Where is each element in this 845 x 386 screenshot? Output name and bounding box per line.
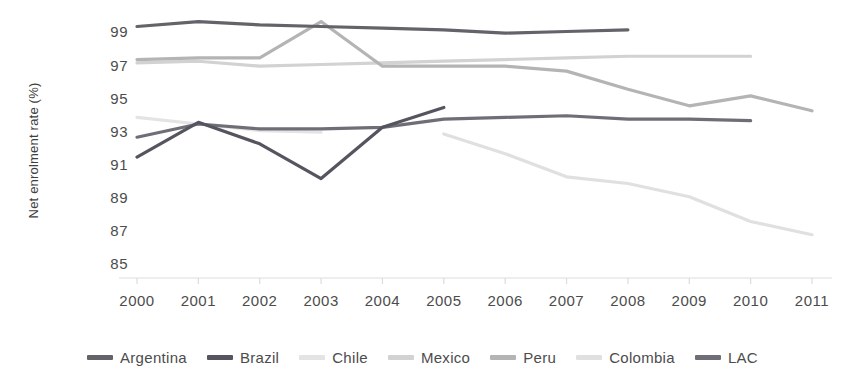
net-enrolment-rate-line-chart: Net enrolment rate (%) 9997959391898785 … <box>0 0 845 386</box>
legend-item-chile[interactable]: Chile <box>299 349 368 366</box>
legend-swatch-lac <box>695 355 721 360</box>
legend-label: Colombia <box>609 349 675 366</box>
legend-swatch-mexico <box>388 355 414 360</box>
legend-item-brazil[interactable]: Brazil <box>207 349 279 366</box>
legend-label: Mexico <box>421 349 470 366</box>
legend-label: Brazil <box>240 349 279 366</box>
x-axis-tick-label: 2004 <box>365 292 400 309</box>
x-axis-tick-label: 2002 <box>242 292 277 309</box>
x-axis-tick-label: 2000 <box>119 292 154 309</box>
legend-swatch-argentina <box>87 355 113 360</box>
legend-item-argentina[interactable]: Argentina <box>87 349 187 366</box>
x-axis-tick-label: 2005 <box>426 292 461 309</box>
legend-swatch-colombia <box>576 355 602 360</box>
legend-item-lac[interactable]: LAC <box>695 349 758 366</box>
legend-item-mexico[interactable]: Mexico <box>388 349 470 366</box>
x-axis-tick-label: 2008 <box>610 292 645 309</box>
x-axis-tick-label: 2006 <box>487 292 522 309</box>
legend-swatch-chile <box>299 355 325 360</box>
legend-label: Argentina <box>120 349 187 366</box>
x-axis-tick-label: 2009 <box>672 292 707 309</box>
legend-label: Chile <box>332 349 368 366</box>
x-axis-tick-labels: 2000200120022003200420052006200720082009… <box>0 0 845 320</box>
x-axis-tick-label: 2011 <box>795 292 829 309</box>
legend-label: LAC <box>728 349 758 366</box>
legend-item-peru[interactable]: Peru <box>490 349 556 366</box>
chart-legend: ArgentinaBrazilChileMexicoPeruColombiaLA… <box>0 340 845 374</box>
legend-label: Peru <box>523 349 556 366</box>
x-axis-tick-label: 2010 <box>733 292 768 309</box>
legend-swatch-peru <box>490 355 516 360</box>
legend-swatch-brazil <box>207 355 233 360</box>
x-axis-tick-label: 2007 <box>549 292 584 309</box>
x-axis-tick-label: 2001 <box>181 292 216 309</box>
legend-item-colombia[interactable]: Colombia <box>576 349 675 366</box>
x-axis-tick-label: 2003 <box>303 292 338 309</box>
